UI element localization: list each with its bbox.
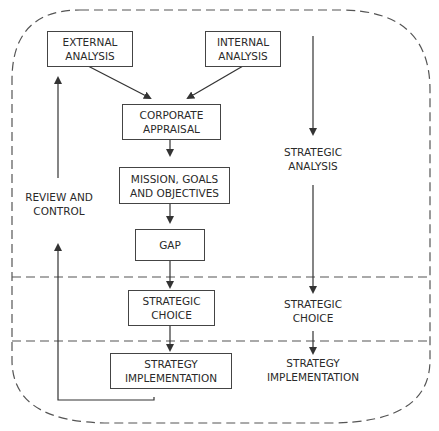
strategy-implementation-stage-label: STRATEGY IMPLEMENTATION bbox=[253, 356, 373, 384]
strategic-choice-stage-label: STRATEGIC CHOICE bbox=[263, 297, 363, 325]
internal-analysis-box: INTERNAL ANALYSIS bbox=[205, 31, 281, 67]
external-analysis-box: EXTERNAL ANALYSIS bbox=[47, 31, 133, 67]
strategic-analysis-label: STRATEGIC ANALYSIS bbox=[263, 145, 363, 173]
gap-box: GAP bbox=[135, 229, 205, 261]
corporate-appraisal-box: CORPORATE APPRAISAL bbox=[122, 104, 221, 140]
review-and-control-label: REVIEW AND CONTROL bbox=[14, 190, 104, 218]
strategic-choice-box: STRATEGIC CHOICE bbox=[128, 290, 215, 326]
strategy-implementation-box: STRATEGY IMPLEMENTATION bbox=[110, 353, 232, 389]
mission-goals-objectives-box: MISSION, GOALS AND OBJECTIVES bbox=[119, 167, 230, 204]
